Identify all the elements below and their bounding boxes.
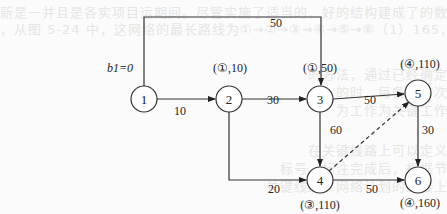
edge-2-4 [229,112,306,180]
weight-3-4: 60 [330,123,342,137]
weight-1-3: 50 [270,16,282,30]
svg-text:2: 2 [226,92,233,107]
start-label: b1=0 [107,61,133,75]
weight-2-4: 20 [268,182,280,196]
weight-4-6: 50 [366,182,378,196]
node-1: 1 [131,86,157,112]
weight-5-6: 30 [422,123,434,137]
node-4-label: (③,110) [300,198,340,212]
svg-text:1: 1 [141,92,148,107]
svg-text:4: 4 [317,173,324,188]
node-5: 5 [405,80,431,106]
node-3-label: (①,50) [303,61,337,75]
node-4: 4 [307,167,333,193]
svg-text:6: 6 [415,173,422,188]
svg-text:3: 3 [317,92,324,107]
node-6-label: (④,160) [400,196,440,210]
edge-1-3 [144,17,321,86]
node-5-label: (④,110) [400,57,440,71]
node-6: 6 [405,167,431,193]
node-3: 3 [307,86,333,112]
weight-2-3: 30 [267,93,279,107]
network-diagram: 1 2 3 4 5 6 b1=0 (①,10) (①,50) (③,110) (… [0,0,447,214]
svg-text:5: 5 [415,86,422,101]
weight-3-5: 50 [364,93,376,107]
weight-1-2: 10 [174,104,186,118]
node-2: 2 [216,86,242,112]
node-2-label: (①,10) [213,61,247,75]
